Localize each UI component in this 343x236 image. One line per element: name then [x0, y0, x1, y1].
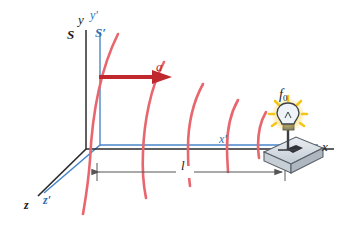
source-frequency-label: f0 — [279, 88, 287, 102]
frequency-subscript: 0 — [283, 93, 288, 103]
frame-s-primed-label: S′ — [95, 26, 106, 39]
length-dimension — [97, 161, 285, 181]
length-label: l — [181, 159, 185, 172]
diagram-vector-layer — [0, 0, 343, 236]
light-source-group — [264, 96, 323, 173]
frame-s-label: S — [67, 28, 74, 41]
z-axis-label: z — [24, 199, 29, 211]
wavefront-group — [83, 34, 266, 214]
y-axis-label: y — [78, 13, 84, 26]
x-axis-label: x — [322, 140, 328, 153]
y-axis-primed-label: y′ — [90, 9, 98, 21]
z-axis-primed-label: z′ — [43, 194, 51, 206]
source-base — [264, 137, 323, 173]
wavefront-arc-4 — [227, 100, 238, 172]
x-axis-primed-label: x′ — [219, 133, 227, 145]
figure-canvas: y y′ S S′ z z′ x x′ a l f0 — [0, 0, 343, 236]
dimension-label-gap — [176, 166, 194, 178]
bulb-glass — [277, 103, 299, 124]
z-axis-line — [38, 149, 86, 196]
acceleration-label: a — [156, 60, 163, 73]
